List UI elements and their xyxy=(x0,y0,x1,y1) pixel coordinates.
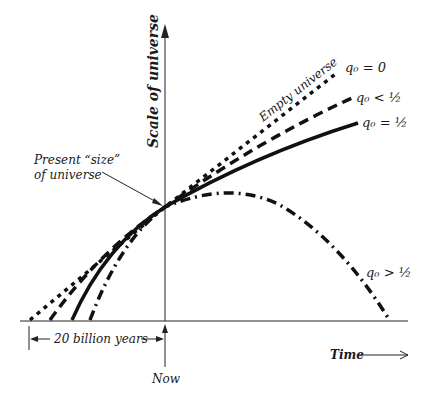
label-q0-zero: q₀ = 0 xyxy=(345,60,386,75)
present-size-pointer xyxy=(102,172,160,204)
now-label: Now xyxy=(151,372,181,386)
now-arrow-icon xyxy=(162,324,168,333)
cosmology-diagram: q₀ = 0 q₀ < ½ q₀ = ½ q₀ > ½ Empty univer… xyxy=(0,0,431,400)
present-size-label-line1: Present “size” xyxy=(33,153,120,167)
span-right-arrow-icon xyxy=(156,336,164,342)
present-size-arrow-icon xyxy=(152,198,163,206)
curve-q0-less-half xyxy=(50,98,352,320)
curve-q0-greater-half xyxy=(90,193,390,321)
span-left-arrow-icon xyxy=(30,336,38,342)
label-q0-equal-half: q₀ = ½ xyxy=(362,115,407,130)
label-q0-greater-half: q₀ > ½ xyxy=(366,265,411,280)
label-q0-less-half: q₀ < ½ xyxy=(356,90,401,105)
scale-of-universe-label: Scale of universe xyxy=(145,14,161,148)
empty-universe-annotation: Empty universe xyxy=(255,55,340,125)
present-size-label-line2: of universe xyxy=(34,168,102,182)
scale-axis-arrow-icon xyxy=(161,24,169,38)
span-label: 20 billion years xyxy=(53,332,148,346)
